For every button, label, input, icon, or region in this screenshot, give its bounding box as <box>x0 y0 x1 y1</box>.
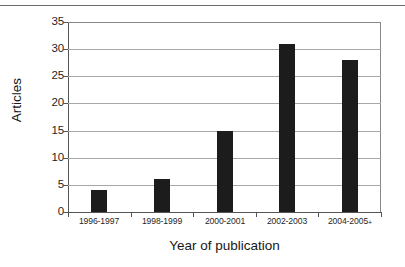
gridline-35 <box>68 22 381 23</box>
bar-1996-1997 <box>91 190 107 212</box>
gridline-20 <box>68 103 381 104</box>
gridline-0 <box>68 212 381 213</box>
y-tick-label-35: 35 <box>24 16 64 28</box>
y-axis-title: Articles <box>9 50 25 150</box>
gridline-30 <box>68 49 381 50</box>
x-axis-title: Year of publication <box>68 238 381 254</box>
x-axis-category-labels: 1996-19971998-19992000-20012002-20032004… <box>68 216 381 232</box>
y-axis-tick-labels: 05101520253035 <box>20 22 64 212</box>
plot-area <box>68 22 381 212</box>
y-tick-label-20: 20 <box>24 97 64 109</box>
x-category-label-2004-2005+: 2004-2005+ <box>315 216 385 227</box>
y-tick-25 <box>63 76 68 77</box>
bar-2002-2003 <box>279 44 295 212</box>
bar-2004-2005+ <box>342 60 358 212</box>
y-tick-30 <box>63 49 68 50</box>
y-tick-10 <box>63 158 68 159</box>
y-tick-label-25: 25 <box>24 70 64 82</box>
y-tick-label-10: 10 <box>24 152 64 164</box>
bar-2000-2001 <box>217 131 233 212</box>
y-tick-35 <box>63 22 68 23</box>
y-tick-5 <box>63 185 68 186</box>
x-category-label-1998-1999: 1998-1999 <box>127 216 197 226</box>
x-category-label-2002-2003: 2002-2003 <box>252 216 322 226</box>
gridline-25 <box>68 76 381 77</box>
y-tick-label-5: 5 <box>24 179 64 191</box>
x-category-label-2000-2001: 2000-2001 <box>190 216 260 226</box>
page-top-rule <box>0 5 405 6</box>
y-tick-20 <box>63 103 68 104</box>
y-tick-label-30: 30 <box>24 43 64 55</box>
y-tick-label-15: 15 <box>24 125 64 137</box>
y-tick-15 <box>63 131 68 132</box>
y-tick-label-0: 0 <box>24 206 64 218</box>
bar-1998-1999 <box>154 179 170 212</box>
bar-chart-figure: 05101520253035 1996-19971998-19992000-20… <box>0 0 405 267</box>
x-category-label-1996-1997: 1996-1997 <box>64 216 134 226</box>
